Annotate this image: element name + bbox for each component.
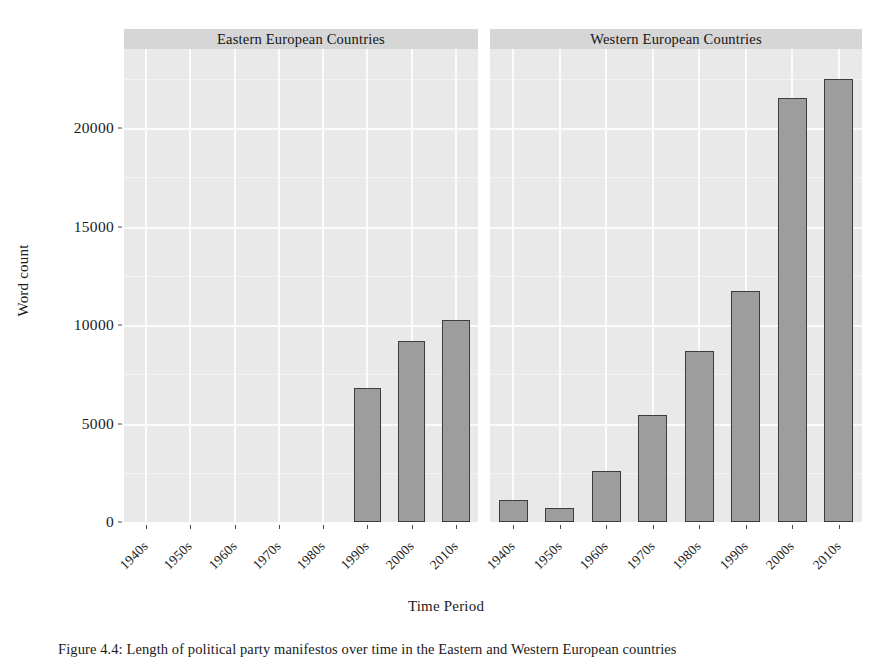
- y-tick-label: 15000: [36, 219, 114, 235]
- x-tick-mark: [412, 525, 413, 529]
- bar: [778, 98, 807, 522]
- gridline-horizontal-minor: [124, 79, 478, 80]
- y-tick-label: 0: [36, 514, 114, 530]
- x-tick-mark: [279, 525, 280, 529]
- x-axis-title: Time Period: [0, 598, 892, 615]
- panel-western-european-countries: Western European Countries: [490, 29, 862, 522]
- x-tick-mark: [235, 525, 236, 529]
- gridline-horizontal-minor: [124, 276, 478, 277]
- gridline-vertical: [145, 49, 147, 522]
- y-tick-label: 20000: [36, 120, 114, 136]
- gridline-vertical: [512, 49, 514, 522]
- bar: [824, 79, 853, 522]
- bar: [685, 351, 714, 522]
- bar: [545, 508, 574, 522]
- y-tick-mark: [118, 325, 122, 326]
- x-tick-mark: [699, 525, 700, 529]
- y-tick-mark: [118, 423, 122, 424]
- x-tick-label: 1950s: [510, 538, 565, 593]
- gridline-horizontal: [124, 227, 478, 229]
- x-tick-label: 2000s: [743, 538, 798, 593]
- x-tick-mark: [513, 525, 514, 529]
- y-tick-mark: [118, 522, 122, 523]
- gridline-horizontal-minor: [124, 177, 478, 178]
- bar: [638, 415, 667, 522]
- plot-area-western: [490, 49, 862, 522]
- panel-eastern-european-countries: Eastern European Countries: [124, 29, 478, 522]
- x-tick-mark: [146, 525, 147, 529]
- x-tick-label: 1970s: [603, 538, 658, 593]
- gridline-vertical: [278, 49, 280, 522]
- x-tick-mark: [456, 525, 457, 529]
- x-tick-mark: [560, 525, 561, 529]
- figure-caption: Figure 4.4: Length of political party ma…: [58, 641, 848, 658]
- x-tick-mark: [653, 525, 654, 529]
- gridline-vertical: [559, 49, 561, 522]
- gridline-vertical: [605, 49, 607, 522]
- plot-area-eastern: [124, 49, 478, 522]
- x-tick-mark: [746, 525, 747, 529]
- x-tick-mark: [367, 525, 368, 529]
- x-tick-label: 1980s: [650, 538, 705, 593]
- bar: [499, 500, 528, 522]
- gridline-vertical: [189, 49, 191, 522]
- x-tick-label: 2010s: [789, 538, 844, 593]
- panel-title-western: Western European Countries: [490, 29, 862, 49]
- x-tick-label: 1940s: [464, 538, 519, 593]
- gridline-vertical: [234, 49, 236, 522]
- bar: [354, 388, 381, 522]
- gridline-horizontal-minor: [490, 79, 862, 80]
- x-tick-mark: [606, 525, 607, 529]
- bar: [398, 341, 425, 522]
- y-tick-label: 5000: [36, 416, 114, 432]
- x-tick-label: 1990s: [696, 538, 751, 593]
- gridline-horizontal: [124, 325, 478, 327]
- x-tick-mark: [190, 525, 191, 529]
- bar: [442, 320, 469, 522]
- y-axis-title: Word count: [15, 206, 32, 356]
- x-tick-label: 1960s: [557, 538, 612, 593]
- gridline-horizontal: [124, 128, 478, 130]
- y-tick-mark: [118, 226, 122, 227]
- x-tick-mark: [323, 525, 324, 529]
- y-tick-label: 10000: [36, 317, 114, 333]
- x-tick-mark: [792, 525, 793, 529]
- x-tick-mark: [839, 525, 840, 529]
- bar: [731, 291, 760, 522]
- bar: [592, 471, 621, 522]
- panel-title-eastern: Eastern European Countries: [124, 29, 478, 49]
- gridline-vertical: [322, 49, 324, 522]
- y-tick-mark: [118, 128, 122, 129]
